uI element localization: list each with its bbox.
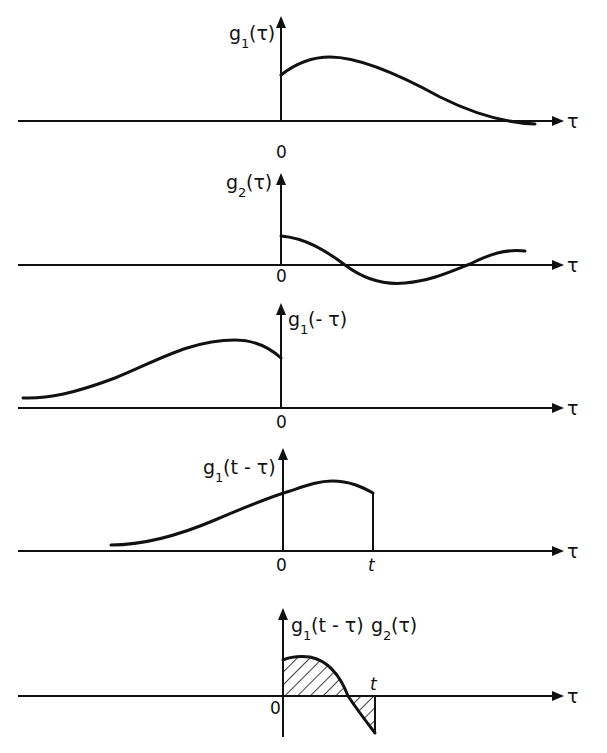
t-label: t [370,674,378,694]
ylabel-arg: (- τ) [308,308,347,330]
panel-g2: g 2 (τ) 0 τ [18,171,578,286]
ylabel-arg2: (τ) [391,614,417,636]
ylabel-arg: (τ) [249,22,275,44]
tau-label: τ [567,540,578,562]
origin-label: 0 [276,266,287,286]
ylabel-arg: (τ) [246,171,272,193]
g2-curve [281,236,525,283]
ylabel-g2: g [371,614,383,636]
t-label: t [368,555,376,575]
panel-g1: g 1 (τ) 0 τ [18,18,578,162]
ylabel-g: g [203,456,215,478]
ylabel-g: g [288,308,300,330]
panel-product: g 1 (t - τ) g 2 (τ) 0 t τ [18,610,578,737]
origin-label: 0 [276,555,287,575]
origin-label: 0 [276,142,287,162]
panel-g1-reversed: g 1 (- τ) 0 τ [18,305,578,432]
panel-g1-shifted: g 1 (t - τ) 0 t τ [18,450,578,575]
g1-reversed-curve [23,340,281,398]
ylabel-g1: g [291,614,303,636]
origin-label: 0 [270,698,281,718]
convolution-diagram: g 1 (τ) 0 τ g 2 (τ) 0 τ g 1 (- τ) 0 τ g … [0,0,607,753]
ylabel-arg: (t - τ) [223,456,276,478]
origin-label: 0 [276,412,287,432]
g1-curve [281,57,535,124]
tau-label: τ [567,254,578,276]
tau-label: τ [567,397,578,419]
tau-label: τ [567,110,578,132]
ylabel-arg1: (t - τ) [311,614,364,636]
ylabel-g: g [226,171,238,193]
tau-label: τ [567,685,578,707]
g1-shifted-curve [111,481,373,545]
ylabel-g: g [229,22,241,44]
